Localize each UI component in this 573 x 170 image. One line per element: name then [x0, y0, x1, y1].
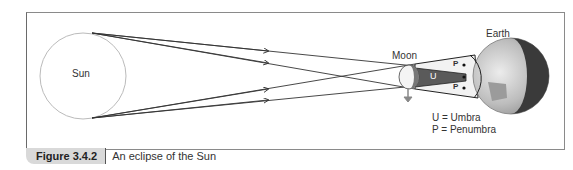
penumbra-marker-top: P [453, 59, 458, 68]
umbra-marker: U [430, 71, 437, 81]
moon-icon [399, 65, 419, 89]
moon-label: Moon [392, 50, 417, 61]
legend-umbra: U = Umbra [432, 112, 481, 123]
sun-label: Sun [72, 68, 90, 79]
figure-caption: Figure 3.4.2 An eclipse of the Sun [26, 148, 216, 164]
legend-penumbra: P = Penumbra [432, 124, 496, 135]
earth-icon [473, 38, 549, 114]
moon-motion-arrow-icon [404, 88, 412, 102]
figure-title: An eclipse of the Sun [106, 150, 216, 162]
eclipse-diagram [0, 0, 573, 170]
earth-label: Earth [486, 28, 510, 39]
light-rays [92, 33, 415, 118]
penumbra-marker-bottom: P [453, 82, 458, 91]
figure-number: Figure 3.4.2 [26, 148, 106, 164]
